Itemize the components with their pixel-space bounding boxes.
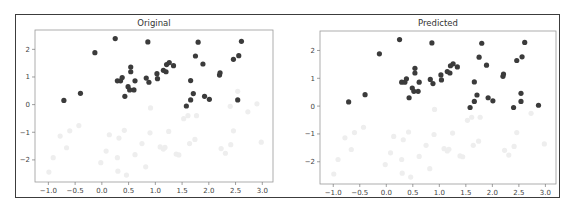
x-tick-label: 2.0 — [487, 189, 498, 197]
data-point — [519, 54, 524, 59]
data-point — [193, 53, 198, 58]
data-point — [377, 51, 382, 56]
data-point — [132, 152, 137, 157]
data-point — [430, 81, 435, 86]
data-point — [188, 97, 193, 102]
data-point — [239, 39, 244, 44]
data-point — [207, 97, 212, 102]
x-tick-label: −1.0 — [40, 187, 57, 195]
data-point — [514, 58, 519, 63]
data-point — [51, 155, 56, 160]
data-point — [501, 72, 506, 77]
figure: Original −1.0−0.50.00.51.01.52.02.53.021… — [0, 0, 574, 212]
data-point — [104, 148, 109, 153]
data-point — [472, 79, 477, 84]
data-point — [162, 145, 167, 150]
data-point — [408, 174, 413, 179]
data-point — [259, 140, 264, 145]
x-tick-label: 1.0 — [150, 187, 161, 195]
data-point — [476, 139, 481, 144]
data-point — [406, 95, 411, 100]
data-point — [412, 66, 417, 71]
data-point — [163, 69, 168, 74]
data-point — [245, 109, 250, 114]
series-class-0 — [46, 89, 264, 178]
data-point — [147, 130, 152, 135]
data-point — [361, 125, 366, 130]
data-point — [331, 171, 336, 176]
y-tick-label: 2 — [26, 46, 30, 54]
data-point — [542, 141, 547, 146]
data-point — [98, 160, 103, 165]
data-point — [518, 99, 523, 104]
data-point — [417, 154, 422, 159]
data-point — [416, 89, 421, 94]
data-point — [61, 98, 66, 103]
data-point — [139, 141, 144, 146]
data-point — [349, 147, 354, 152]
plot-area — [320, 31, 556, 184]
chart-original: Original −1.0−0.50.00.51.01.52.02.53.021… — [20, 18, 273, 195]
data-point — [188, 78, 193, 83]
data-point — [465, 118, 470, 123]
data-point — [438, 72, 443, 77]
data-point — [254, 101, 259, 106]
x-tick-label: 1.5 — [177, 187, 188, 195]
data-point — [431, 132, 436, 137]
data-point — [412, 70, 417, 75]
data-point — [511, 105, 516, 110]
data-point — [486, 95, 491, 100]
data-point — [479, 41, 484, 46]
data-point — [450, 130, 455, 135]
data-point — [167, 60, 172, 65]
data-point — [451, 61, 456, 66]
data-point — [335, 157, 340, 162]
data-point — [154, 71, 159, 76]
data-point — [67, 128, 72, 133]
data-point — [145, 39, 150, 44]
data-point — [478, 115, 483, 120]
x-tick-label: −1.0 — [325, 189, 342, 197]
data-point — [228, 142, 233, 147]
data-point — [166, 129, 171, 134]
y-tick-label: 1 — [26, 73, 30, 81]
x-tick-label: 2.5 — [230, 187, 241, 195]
data-point — [107, 132, 112, 137]
x-tick-label: 3.0 — [257, 187, 268, 195]
chart-title: Predicted — [418, 18, 458, 28]
data-point — [236, 53, 241, 58]
y-tick-label: 1 — [311, 75, 315, 83]
data-point — [352, 130, 357, 135]
data-point — [235, 97, 240, 102]
series-class-0 — [331, 107, 547, 180]
data-point — [78, 91, 83, 96]
data-point — [447, 70, 452, 75]
data-point — [235, 89, 240, 94]
data-point — [187, 141, 192, 146]
data-point — [128, 64, 133, 69]
data-point — [46, 169, 51, 174]
x-tick-label: −0.5 — [351, 189, 368, 197]
y-tick-label: 0 — [26, 101, 30, 109]
data-point — [362, 92, 367, 97]
data-point — [383, 162, 388, 167]
data-point — [120, 75, 125, 80]
data-point — [64, 145, 69, 150]
data-point — [399, 157, 404, 162]
data-point — [439, 77, 444, 82]
data-point — [58, 134, 63, 139]
data-point — [506, 152, 511, 157]
data-point — [484, 63, 489, 68]
data-point — [512, 144, 517, 149]
data-point — [115, 155, 120, 160]
data-point — [342, 135, 347, 140]
data-point — [122, 128, 127, 133]
y-tick-label: −1 — [305, 130, 315, 138]
x-tick-label: 0.5 — [123, 187, 134, 195]
chart-title: Original — [137, 18, 170, 28]
data-point — [113, 36, 118, 41]
y-tick-label: −2 — [305, 158, 315, 166]
data-point — [146, 80, 151, 85]
data-point — [471, 143, 476, 148]
data-point — [228, 104, 233, 109]
